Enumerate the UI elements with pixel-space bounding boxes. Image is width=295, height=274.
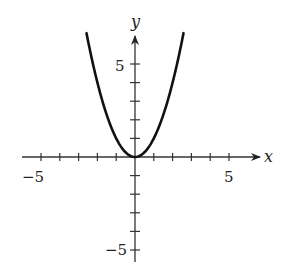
y-axis-label: y	[130, 12, 141, 31]
chart-canvas: x y −5 5 5 −5	[0, 0, 295, 274]
x-tick-label-pos5: 5	[224, 168, 234, 186]
y-tick-label-neg5: −5	[105, 241, 127, 259]
x-axis-label: x	[264, 147, 273, 166]
y-tick-label-pos5: 5	[115, 57, 125, 75]
x-tick-label-neg5: −5	[22, 168, 44, 186]
